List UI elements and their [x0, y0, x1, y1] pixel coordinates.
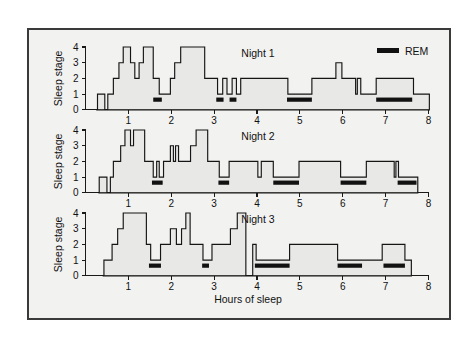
hypnogram-chart: REM 01234Sleep stage12345678Night 101234… [0, 0, 473, 345]
x-tick-label: 2 [168, 198, 174, 209]
rem-bar [149, 264, 161, 268]
x-tick-label: 8 [426, 198, 432, 209]
x-tick-label: 7 [383, 115, 389, 126]
panel-1: 01234Sleep stage12345678Night 1 [52, 42, 432, 126]
x-tick-label: 5 [297, 281, 303, 292]
panel-2: 01234Sleep stage12345678Night 2 [52, 125, 432, 209]
panel-title-night-1: Night 1 [241, 47, 274, 59]
x-tick-label: 3 [211, 115, 217, 126]
rem-bar [230, 98, 237, 102]
rem-swatch [377, 48, 399, 53]
panel-title-night-3: Night 3 [241, 213, 274, 225]
rem-bar [153, 98, 162, 102]
x-tick-label: 4 [254, 281, 260, 292]
x-tick-label: 3 [211, 198, 217, 209]
panel-title-night-2: Night 2 [241, 130, 274, 142]
x-tick-label: 6 [340, 115, 346, 126]
x-tick-label: 2 [168, 115, 174, 126]
panel-group: 01234Sleep stage12345678Night 101234Slee… [52, 42, 432, 292]
rem-bar [287, 98, 312, 102]
x-tick-label: 6 [340, 198, 346, 209]
x-tick-label: 3 [211, 281, 217, 292]
x-axis-title: Hours of sleep [214, 293, 282, 305]
rem-bar [218, 181, 229, 185]
rem-bar [341, 181, 367, 185]
x-tick-label: 6 [340, 281, 346, 292]
y-tick-label: 3 [73, 223, 79, 234]
rem-bar [398, 181, 417, 185]
y-axis-title: Sleep stage [52, 217, 64, 273]
y-tick-label: 0 [73, 187, 79, 198]
x-tick-label: 1 [126, 281, 132, 292]
rem-bar [273, 181, 299, 185]
y-tick-label: 1 [73, 172, 79, 183]
panel-3: 01234Sleep stage12345678Night 3 [52, 208, 432, 292]
figure-container: REM 01234Sleep stage12345678Night 101234… [0, 0, 473, 345]
x-tick-label: 7 [383, 198, 389, 209]
rem-bar [383, 264, 404, 268]
x-tick-label: 8 [426, 115, 432, 126]
rem-bar [255, 264, 290, 268]
y-tick-label: 2 [73, 156, 79, 167]
x-tick-label: 1 [126, 115, 132, 126]
x-tick-label: 2 [168, 281, 174, 292]
y-tick-label: 0 [73, 270, 79, 281]
y-tick-label: 4 [73, 125, 79, 136]
legend-label: REM [405, 45, 428, 57]
legend: REM [377, 45, 428, 57]
y-tick-label: 1 [73, 255, 79, 266]
y-tick-label: 3 [73, 57, 79, 68]
y-tick-label: 0 [73, 104, 79, 115]
y-tick-label: 3 [73, 140, 79, 151]
rem-bar [216, 98, 223, 102]
x-tick-label: 4 [254, 198, 260, 209]
y-axis-title: Sleep stage [52, 51, 64, 107]
y-tick-label: 4 [73, 42, 79, 53]
rem-bar [338, 264, 362, 268]
rem-bar [152, 181, 163, 185]
x-tick-label: 5 [297, 198, 303, 209]
x-tick-label: 7 [383, 281, 389, 292]
x-tick-label: 4 [254, 115, 260, 126]
y-tick-label: 2 [73, 73, 79, 84]
y-axis-title: Sleep stage [52, 134, 64, 190]
rem-bar [376, 98, 412, 102]
rem-bar [202, 264, 209, 268]
y-tick-label: 2 [73, 239, 79, 250]
y-tick-label: 1 [73, 89, 79, 100]
y-tick-label: 4 [73, 208, 79, 219]
x-tick-label: 1 [126, 198, 132, 209]
x-tick-label: 8 [426, 281, 432, 292]
x-tick-label: 5 [297, 115, 303, 126]
